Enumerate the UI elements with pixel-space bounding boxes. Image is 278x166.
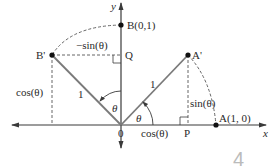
origin-label: 0 [118, 127, 124, 139]
label-theta-left: θ [112, 102, 118, 114]
label-aprime: A' [192, 49, 202, 61]
angle-arc-left [100, 91, 121, 101]
label-cos-bottom: cos(θ) [141, 127, 169, 140]
y-axis-label: y [110, 0, 116, 12]
label-theta-right: θ [136, 112, 142, 124]
label-neg-sin: −sin(θ) [76, 39, 108, 52]
point-a [213, 122, 218, 127]
arc-aprime-to-a [188, 55, 216, 125]
point-b [118, 22, 123, 27]
label-one-left: 1 [78, 88, 84, 100]
x-axis-label: x [262, 127, 268, 139]
right-angle-q [113, 55, 121, 63]
radius-ob-prime [52, 55, 121, 125]
radius-oa-prime [121, 55, 188, 125]
label-cos-left: cos(θ) [16, 86, 44, 99]
label-b: B(0,1) [127, 19, 156, 32]
label-bprime: B' [36, 49, 45, 61]
corner-artifact: 4 [233, 148, 244, 166]
label-p: P [184, 127, 190, 139]
rotation-diagram: y x 0 B(0,1) Q B' A' P A(1, 0) −sin(θ) c… [0, 0, 278, 166]
angle-arc-right [143, 102, 153, 125]
label-a: A(1, 0) [219, 112, 251, 125]
label-q: Q [125, 49, 133, 61]
right-angle-p [180, 117, 188, 125]
point-aprime [185, 52, 190, 57]
label-one-right: 1 [150, 78, 156, 90]
label-sin-right: sin(θ) [190, 97, 216, 110]
point-bprime [49, 52, 54, 57]
